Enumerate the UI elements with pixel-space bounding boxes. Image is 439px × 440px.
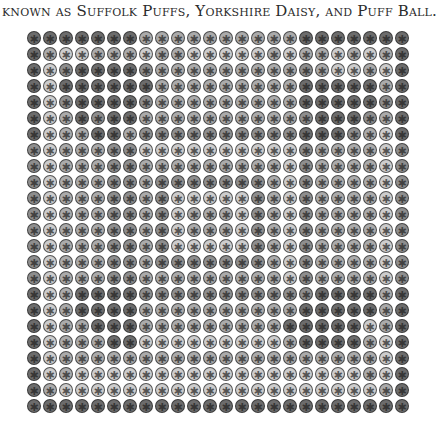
gathered-center-icon: ✱ xyxy=(29,321,38,332)
gathered-center-icon: ✱ xyxy=(269,241,278,252)
yoyo-disc: ✱ xyxy=(27,335,41,349)
gathered-center-icon: ✱ xyxy=(237,145,246,156)
gathered-center-icon: ✱ xyxy=(285,209,294,220)
yoyo-disc: ✱ xyxy=(347,111,361,125)
gathered-center-icon: ✱ xyxy=(29,209,38,220)
yoyo-disc: ✱ xyxy=(43,143,57,157)
yoyo-disc: ✱ xyxy=(75,111,89,125)
yoyo-disc: ✱ xyxy=(347,223,361,237)
gathered-center-icon: ✱ xyxy=(301,129,310,140)
gathered-center-icon: ✱ xyxy=(93,97,102,108)
yoyo-disc: ✱ xyxy=(315,303,329,317)
yoyo-disc: ✱ xyxy=(75,367,89,381)
yoyo-disc: ✱ xyxy=(331,127,345,141)
gathered-center-icon: ✱ xyxy=(45,113,54,124)
gathered-center-icon: ✱ xyxy=(221,257,230,268)
gathered-center-icon: ✱ xyxy=(77,385,86,396)
yoyo-disc: ✱ xyxy=(235,319,249,333)
gathered-center-icon: ✱ xyxy=(285,289,294,300)
gathered-center-icon: ✱ xyxy=(141,177,150,188)
yoyo-disc: ✱ xyxy=(299,207,313,221)
gathered-center-icon: ✱ xyxy=(381,65,390,76)
gathered-center-icon: ✱ xyxy=(157,145,166,156)
gathered-center-icon: ✱ xyxy=(157,177,166,188)
yoyo-disc: ✱ xyxy=(363,287,377,301)
yoyo-disc: ✱ xyxy=(59,127,73,141)
gathered-center-icon: ✱ xyxy=(29,257,38,268)
gathered-center-icon: ✱ xyxy=(381,289,390,300)
gathered-center-icon: ✱ xyxy=(365,97,374,108)
yoyo-disc: ✱ xyxy=(171,399,185,413)
yoyo-disc: ✱ xyxy=(379,207,393,221)
gathered-center-icon: ✱ xyxy=(381,337,390,348)
yoyo-disc: ✱ xyxy=(283,223,297,237)
yoyo-disc: ✱ xyxy=(107,191,121,205)
yoyo-disc: ✱ xyxy=(171,303,185,317)
gathered-center-icon: ✱ xyxy=(205,289,214,300)
gathered-center-icon: ✱ xyxy=(301,225,310,236)
yoyo-disc: ✱ xyxy=(107,111,121,125)
yoyo-disc: ✱ xyxy=(123,255,137,269)
yoyo-disc: ✱ xyxy=(203,31,217,45)
yoyo-disc: ✱ xyxy=(43,111,57,125)
gathered-center-icon: ✱ xyxy=(125,33,134,44)
gathered-center-icon: ✱ xyxy=(333,65,342,76)
gathered-center-icon: ✱ xyxy=(61,33,70,44)
gathered-center-icon: ✱ xyxy=(189,65,198,76)
yoyo-disc: ✱ xyxy=(251,47,265,61)
gathered-center-icon: ✱ xyxy=(381,401,390,412)
yoyo-disc: ✱ xyxy=(123,111,137,125)
gathered-center-icon: ✱ xyxy=(237,113,246,124)
yoyo-disc: ✱ xyxy=(219,383,233,397)
yoyo-disc: ✱ xyxy=(171,47,185,61)
yoyo-disc: ✱ xyxy=(363,335,377,349)
yoyo-disc: ✱ xyxy=(219,79,233,93)
yoyo-disc: ✱ xyxy=(91,383,105,397)
yoyo-disc: ✱ xyxy=(107,95,121,109)
gathered-center-icon: ✱ xyxy=(173,305,182,316)
yoyo-disc: ✱ xyxy=(235,303,249,317)
yoyo-disc: ✱ xyxy=(235,223,249,237)
yoyo-disc: ✱ xyxy=(235,143,249,157)
gathered-center-icon: ✱ xyxy=(125,257,134,268)
yoyo-disc: ✱ xyxy=(347,159,361,173)
yoyo-disc: ✱ xyxy=(379,31,393,45)
yoyo-disc: ✱ xyxy=(171,287,185,301)
yoyo-disc: ✱ xyxy=(91,47,105,61)
yoyo-disc: ✱ xyxy=(331,31,345,45)
yoyo-disc: ✱ xyxy=(123,143,137,157)
gathered-center-icon: ✱ xyxy=(365,241,374,252)
gathered-center-icon: ✱ xyxy=(301,177,310,188)
yoyo-disc: ✱ xyxy=(379,111,393,125)
yoyo-disc: ✱ xyxy=(75,175,89,189)
gathered-center-icon: ✱ xyxy=(317,209,326,220)
yoyo-disc: ✱ xyxy=(363,175,377,189)
yoyo-disc: ✱ xyxy=(379,191,393,205)
gathered-center-icon: ✱ xyxy=(253,209,262,220)
gathered-center-icon: ✱ xyxy=(205,81,214,92)
gathered-center-icon: ✱ xyxy=(29,289,38,300)
yoyo-disc: ✱ xyxy=(155,271,169,285)
yoyo-disc: ✱ xyxy=(27,31,41,45)
yoyo-disc: ✱ xyxy=(331,191,345,205)
yoyo-disc: ✱ xyxy=(155,335,169,349)
gathered-center-icon: ✱ xyxy=(365,337,374,348)
gathered-center-icon: ✱ xyxy=(237,177,246,188)
gathered-center-icon: ✱ xyxy=(125,145,134,156)
yoyo-disc: ✱ xyxy=(155,303,169,317)
gathered-center-icon: ✱ xyxy=(221,353,230,364)
yoyo-disc: ✱ xyxy=(395,383,409,397)
yoyo-disc: ✱ xyxy=(267,271,281,285)
yoyo-disc: ✱ xyxy=(331,79,345,93)
yoyo-disc: ✱ xyxy=(155,143,169,157)
gathered-center-icon: ✱ xyxy=(109,257,118,268)
yoyo-disc: ✱ xyxy=(43,335,57,349)
yoyo-disc: ✱ xyxy=(107,143,121,157)
yoyo-disc: ✱ xyxy=(203,271,217,285)
gathered-center-icon: ✱ xyxy=(109,225,118,236)
gathered-center-icon: ✱ xyxy=(189,177,198,188)
gathered-center-icon: ✱ xyxy=(285,65,294,76)
gathered-center-icon: ✱ xyxy=(397,65,406,76)
gathered-center-icon: ✱ xyxy=(269,337,278,348)
gathered-center-icon: ✱ xyxy=(189,273,198,284)
